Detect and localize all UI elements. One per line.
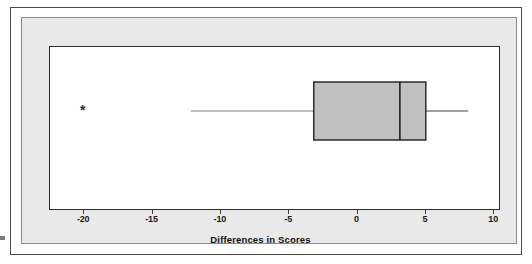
x-axis-title-text: Differences in Scores [210, 234, 310, 245]
chart-figure-panel: * -20-15-10-50510 Differences in Scores [21, 17, 517, 244]
x-axis: -20-15-10-50510 [49, 210, 500, 232]
x-axis-title: Differences in Scores [49, 234, 500, 245]
outlier-marker: * [80, 102, 86, 118]
x-tick-label: 5 [422, 214, 427, 224]
x-tick-label: 0 [354, 214, 359, 224]
boxplot-plot-area: * [49, 46, 500, 210]
page-outer-frame: * -20-15-10-50510 Differences in Scores [10, 7, 522, 255]
boxplot-canvas: * [50, 47, 501, 211]
box-iqr [314, 82, 426, 140]
x-tick-label: 10 [488, 214, 498, 224]
page-margin-mark [0, 236, 5, 240]
x-tick-label: -5 [284, 214, 292, 224]
x-tick-label: -10 [214, 214, 226, 224]
x-tick-label: -15 [145, 214, 157, 224]
x-tick-label: -20 [77, 214, 89, 224]
figure-page: * -20-15-10-50510 Differences in Scores [0, 0, 532, 264]
